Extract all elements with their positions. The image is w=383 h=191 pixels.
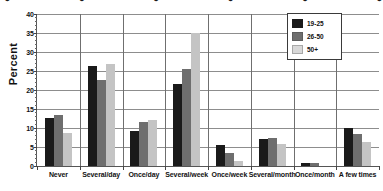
- x-axis-tick-mark: [80, 166, 81, 170]
- bar: [63, 133, 72, 166]
- bar: [268, 138, 277, 166]
- bar-group: [336, 14, 379, 166]
- bar-group: [208, 14, 251, 166]
- legend-label-50-plus: 50+: [307, 46, 318, 53]
- bar: [234, 161, 243, 166]
- legend-item-50-plus: 50+: [292, 43, 338, 56]
- y-axis-label: Percent: [7, 29, 19, 99]
- bar: [353, 134, 362, 166]
- bar: [148, 120, 157, 166]
- y-axis-tick-label: 40: [26, 11, 34, 18]
- x-axis-tick-mark: [379, 166, 380, 170]
- legend-swatch-19-25: [292, 19, 303, 28]
- bar: [301, 163, 310, 166]
- bar: [277, 144, 286, 166]
- x-axis-tick-label: Once/month: [295, 171, 335, 178]
- bar: [216, 145, 225, 166]
- bar-group: [80, 14, 123, 166]
- legend-swatch-50-plus: [292, 45, 303, 54]
- legend-item-19-25: 19-25: [292, 17, 338, 30]
- bar: [130, 131, 139, 166]
- y-axis-tick-label: 30: [26, 49, 34, 56]
- bar: [106, 64, 115, 166]
- x-axis-tick-mark: [251, 166, 252, 170]
- bar-group: [165, 14, 208, 166]
- bar: [362, 142, 371, 166]
- bar-group: [37, 14, 80, 166]
- bar: [182, 69, 191, 166]
- x-axis-tick-label: Several/month: [249, 171, 296, 178]
- bar: [54, 115, 63, 166]
- x-axis-tick-label: A few times: [339, 171, 377, 178]
- bar-chart-figure: Percent 0510152025303540NeverSeveral/day…: [0, 0, 383, 191]
- x-axis-tick-label: Once/day: [129, 171, 160, 178]
- legend-label-26-50: 26-50: [307, 33, 324, 40]
- y-axis-tick-label: 20: [26, 87, 34, 94]
- x-axis-tick-label: Several/week: [165, 171, 208, 178]
- x-axis-tick-mark: [294, 166, 295, 170]
- x-axis-tick-label: Several/day: [82, 171, 120, 178]
- bar: [173, 84, 182, 166]
- x-axis-tick-mark: [165, 166, 166, 170]
- bar-group: [123, 14, 166, 166]
- bar: [259, 139, 268, 166]
- bar: [88, 66, 97, 166]
- bar: [344, 128, 353, 166]
- legend-label-19-25: 19-25: [307, 20, 324, 27]
- legend-swatch-26-50: [292, 32, 303, 41]
- bar: [225, 153, 234, 166]
- bar: [139, 122, 148, 166]
- x-axis-tick-mark: [37, 166, 38, 170]
- bar: [191, 33, 200, 166]
- legend-item-26-50: 26-50: [292, 30, 338, 43]
- y-axis-tick-label: 15: [26, 106, 34, 113]
- bar: [310, 163, 319, 166]
- bar: [97, 80, 106, 166]
- x-axis-tick-label: Once/week: [212, 171, 248, 178]
- bar: [45, 118, 54, 166]
- y-axis-tick-label: 10: [26, 125, 34, 132]
- x-axis-tick-label: Never: [49, 171, 68, 178]
- y-axis-tick-label: 35: [26, 30, 34, 37]
- x-axis-tick-mark: [336, 166, 337, 170]
- x-axis-tick-mark: [208, 166, 209, 170]
- x-axis-tick-mark: [123, 166, 124, 170]
- y-axis-tick-label: 25: [26, 68, 34, 75]
- chart-legend: 19-25 26-50 50+: [287, 13, 342, 60]
